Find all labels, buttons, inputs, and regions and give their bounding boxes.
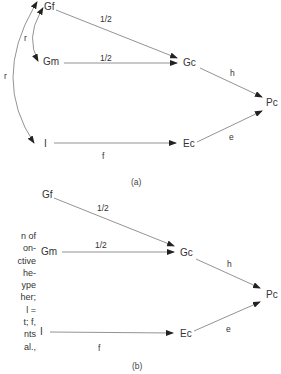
side-text-line: t; f,: [0, 316, 36, 328]
node-gc-b: Gc: [180, 248, 193, 258]
edge-label-ec-pc-b: e: [226, 324, 231, 334]
edge-label-gm-gc-a: 1/2: [100, 53, 112, 63]
edge-label-gf-i-a: r: [4, 71, 7, 81]
node-pc-b: Pc: [266, 290, 278, 300]
edge-label-gf-gc-b: 1/2: [97, 203, 109, 213]
side-text-line: he-: [0, 267, 36, 279]
side-caption-text: n of on- ctive he- ype her; l = t; f, nt…: [0, 230, 36, 353]
node-ec-b: Ec: [180, 329, 192, 339]
node-i-b: I: [40, 327, 43, 337]
side-text-line: al.,: [0, 341, 36, 353]
side-text-line: her;: [0, 291, 36, 303]
side-text-line: on-: [0, 242, 36, 254]
caption-b: (b): [132, 361, 142, 371]
edge-label-gm-gc-b: 1/2: [95, 240, 107, 250]
node-gm-a: Gm: [43, 57, 59, 67]
edge-label-ec-pc-a: e: [229, 132, 234, 142]
node-pc-a: Pc: [266, 98, 278, 108]
side-text-line: nts: [0, 328, 36, 340]
node-ec-a: Ec: [183, 139, 195, 149]
side-text-line: ype: [0, 279, 36, 291]
side-text-line: n of: [0, 230, 36, 242]
node-gm-b: Gm: [41, 247, 57, 257]
caption-a: (a): [131, 177, 141, 187]
edge-label-gf-gm-a: r: [24, 33, 27, 43]
node-gc-a: Gc: [183, 58, 196, 68]
side-text-line: ctive: [0, 255, 36, 267]
edge-label-i-ec-b: f: [98, 343, 100, 353]
edge-label-gf-gc-a: 1/2: [100, 14, 112, 24]
side-text-line: l =: [0, 304, 36, 316]
edge-label-i-ec-a: f: [102, 151, 104, 161]
edge-label-gc-pc-b: h: [227, 259, 232, 269]
node-gf-a: Gf: [44, 2, 55, 12]
node-i-a: I: [44, 139, 47, 149]
node-gf-b: Gf: [42, 190, 53, 200]
edge-label-gc-pc-a: h: [230, 68, 235, 78]
